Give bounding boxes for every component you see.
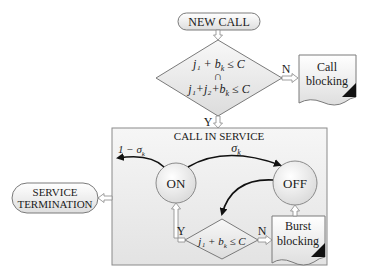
intersection-operator: ∩: [214, 69, 223, 83]
flowchart-canvas: NEW CALL j₁ + bk ≤ C ∩ j₁+j₂+bk ≤ C N Ca…: [0, 0, 367, 278]
burst-no-label: N: [258, 224, 267, 238]
service-termination-line1: SERVICE: [33, 186, 78, 198]
burst-blocking-line1: Burst: [285, 219, 312, 233]
condition-2: j₁+j₂+bk ≤ C: [186, 82, 250, 98]
hollow-arrow-left-icon: [98, 194, 112, 203]
new-call-terminal: NEW CALL: [178, 13, 260, 30]
admission-decision: j₁ + bk ≤ C ∩ j₁+j₂+bk ≤ C: [156, 40, 282, 116]
admission-no-label: N: [282, 62, 291, 76]
on-state-label: ON: [167, 176, 186, 191]
new-call-label: NEW CALL: [188, 15, 249, 29]
hollow-arrow-down-icon: [214, 30, 223, 40]
call-blocking-document: Call blocking: [299, 55, 356, 105]
call-blocking-line1: Call: [317, 60, 338, 74]
hollow-arrow-down-icon: [214, 116, 223, 128]
admission-yes-label: Y: [204, 115, 213, 129]
on-state: ON: [156, 163, 196, 203]
call-in-service-title: CALL IN SERVICE: [174, 130, 265, 142]
call-blocking-line2: blocking: [306, 74, 348, 88]
off-state-label: OFF: [283, 176, 307, 191]
burst-blocking-document: Burst blocking: [272, 216, 325, 265]
off-state: OFF: [273, 161, 317, 205]
burst-blocking-line2: blocking: [277, 234, 319, 248]
service-termination-line2: TERMINATION: [17, 198, 92, 210]
burst-yes-label: Y: [177, 224, 186, 238]
service-termination-terminal: SERVICE TERMINATION: [12, 183, 98, 213]
